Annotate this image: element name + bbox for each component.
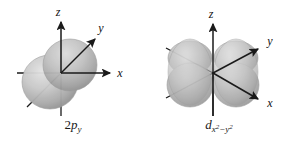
orbital-caption-2py: 2py (0, 118, 146, 131)
axis-label-z-2py: z (55, 5, 61, 19)
caption-sub-minus-y: −y (219, 124, 229, 134)
orbital-lobes-2py (22, 39, 97, 109)
axis-label-y-dx2y2: y (266, 34, 273, 48)
axis-label-y-2py: y (97, 21, 104, 35)
orbital-caption-dx2y2: dx2−y2 (146, 118, 292, 131)
orbital-figure: z y x 2py (0, 0, 292, 148)
axis-label-x-2py: x (116, 66, 123, 80)
caption-subscript-2py: y (78, 124, 82, 134)
caption-sub-exp2: 2 (229, 122, 233, 130)
orbital-lobe-left-dx2y2 (168, 39, 212, 105)
axis-label-x-dx2y2: x (266, 96, 273, 110)
orbital-panel-dx2y2: z y x dx2−y2 (146, 0, 292, 148)
caption-subscript-dx2y2: x2−y2 (212, 124, 233, 134)
axis-label-z-dx2y2: z (208, 7, 214, 21)
orbital-panel-2py: z y x 2py (0, 0, 146, 148)
